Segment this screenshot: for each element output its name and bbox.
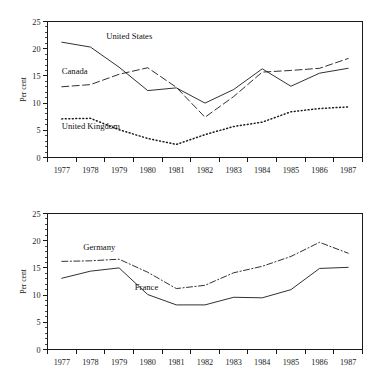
series-line-france [62,267,348,305]
x-tick-label: 1985 [283,358,299,367]
series-line-canada [62,58,348,117]
x-tick-label: 1980 [140,358,156,367]
y-tick-label: 15 [32,72,40,81]
x-tick-label: 1984 [254,166,270,175]
line-chart-top: 0510152025197719781979198019811982198319… [0,0,378,195]
y-tick-label: 0 [36,154,40,163]
x-tick-label: 1982 [197,166,213,175]
unemployment-rate-figure: 0510152025197719781979198019811982198319… [0,0,378,387]
chart-panel-bottom: 0510152025197719781979198019811982198319… [0,192,378,387]
series-label-germany: Germany [83,242,116,252]
x-tick-label: 1986 [311,358,327,367]
x-tick-label: 1986 [311,166,327,175]
y-tick-label: 25 [32,210,40,219]
series-line-united-states [62,42,348,103]
x-tick-label: 1985 [283,166,299,175]
x-tick-label: 1979 [111,358,127,367]
x-tick-label: 1978 [82,166,98,175]
x-tick-label: 1983 [225,166,241,175]
y-tick-label: 20 [32,237,40,246]
y-tick-label: 10 [32,291,40,300]
series-label-france: France [135,282,159,292]
x-tick-label: 1983 [225,358,241,367]
line-chart-bottom: 0510152025197719781979198019811982198319… [0,192,378,387]
y-tick-label: 5 [36,126,40,135]
x-tick-label: 1984 [254,358,270,367]
x-tick-label: 1982 [197,358,213,367]
series-label-canada: Canada [62,66,88,76]
series-label-united-kingdom: United Kingdom [62,121,120,131]
x-tick-label: 1980 [140,166,156,175]
x-tick-label: 1978 [82,358,98,367]
x-tick-label: 1977 [54,358,70,367]
y-tick-label: 15 [32,264,40,273]
y-tick-label: 25 [32,18,40,27]
y-axis-title: Per cent [19,268,28,294]
y-axis-title: Per cent [19,76,28,102]
y-tick-label: 10 [32,99,40,108]
y-tick-label: 5 [36,318,40,327]
y-tick-label: 20 [32,45,40,54]
series-label-united-states: United States [106,31,153,41]
x-tick-label: 1981 [168,166,184,175]
x-tick-label: 1987 [340,166,356,175]
chart-panel-top: 0510152025197719781979198019811982198319… [0,0,378,195]
x-tick-label: 1981 [168,358,184,367]
x-tick-label: 1979 [111,166,127,175]
x-tick-label: 1987 [340,358,356,367]
y-tick-label: 0 [36,346,40,355]
x-tick-label: 1977 [54,166,70,175]
